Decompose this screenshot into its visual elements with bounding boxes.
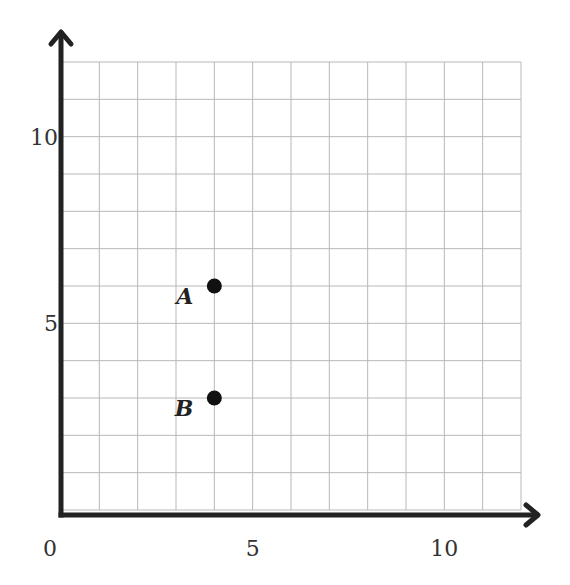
x-tick-labels: 0510 <box>43 536 458 561</box>
y-tick-labels: 510 <box>30 125 58 337</box>
axes <box>51 32 538 525</box>
point-b-label: B <box>174 395 194 421</box>
x-tick-label: 5 <box>246 536 260 561</box>
y-tick-label: 5 <box>44 311 58 336</box>
grid <box>61 62 521 510</box>
coordinate-plane: 0510 510 AB <box>0 0 570 585</box>
point-b <box>207 391 222 406</box>
x-tick-label: 0 <box>43 536 57 561</box>
y-tick-label: 10 <box>30 125 58 150</box>
point-a <box>207 279 222 294</box>
point-a-label: A <box>174 283 193 309</box>
x-tick-label: 10 <box>430 536 458 561</box>
